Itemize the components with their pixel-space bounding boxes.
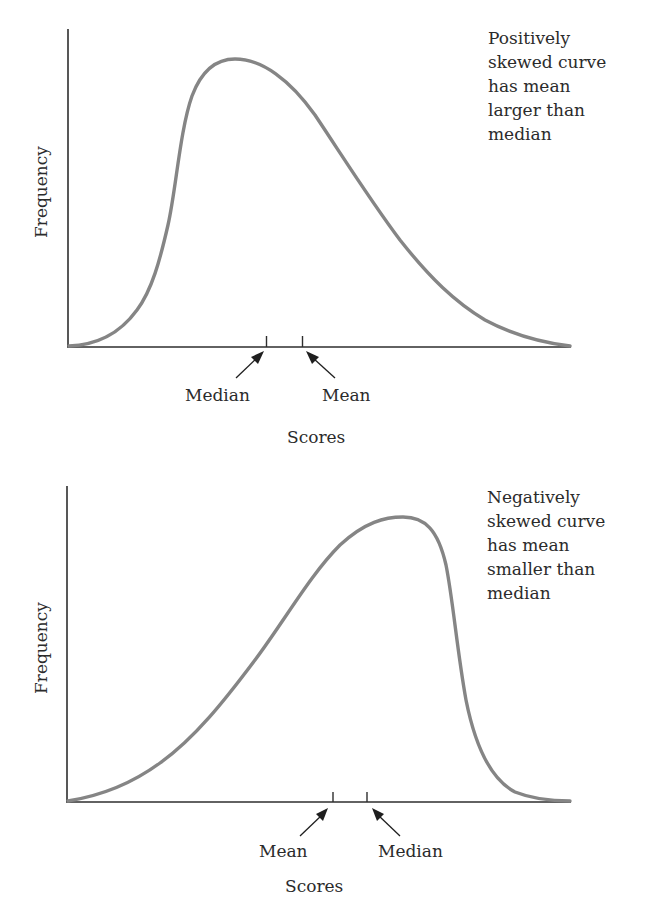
x-axis-label: Scores [285,876,343,896]
note-line: skewed curve [487,511,605,531]
y-axis-label: Frequency [31,602,51,694]
note-line: has mean [488,76,571,96]
positively-skewed-chart: Median Mean Scores Frequency Positively … [31,28,606,447]
mean-arrow [300,808,328,836]
median-label: Median [185,385,250,405]
x-axis-label: Scores [287,427,345,447]
note-line: skewed curve [488,52,606,72]
y-axis-label: Frequency [31,146,51,238]
negatively-skewed-chart: Mean Median Scores Frequency Negatively … [31,486,605,896]
skewed-distributions-figure: Median Mean Scores Frequency Positively … [0,0,652,922]
note-line: has mean [487,535,570,555]
annotation-note: Positively skewed curve has mean larger … [488,28,606,144]
note-line: larger than [488,100,585,120]
note-line: smaller than [487,559,595,579]
median-arrow [236,351,264,378]
median-label: Median [378,841,443,861]
mean-label: Mean [259,841,308,861]
note-line: median [487,583,551,603]
note-line: Positively [488,28,571,48]
median-arrow [372,808,400,836]
annotation-note: Negatively skewed curve has mean smaller… [487,487,605,603]
mean-arrow [306,351,335,378]
note-line: Negatively [487,487,580,507]
mean-label: Mean [322,385,371,405]
note-line: median [488,124,552,144]
